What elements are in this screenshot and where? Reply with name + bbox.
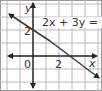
coordinate-graph	[0, 0, 102, 91]
equation-label: 2x + 3y = 6	[40, 17, 102, 28]
origin-label: 0	[24, 59, 31, 70]
graph-border	[1, 1, 102, 91]
y-axis-label: y	[25, 3, 32, 14]
x-tick-label: 2	[55, 59, 62, 70]
x-axis-label: x	[89, 58, 96, 69]
y-tick-label: 2	[24, 26, 31, 37]
